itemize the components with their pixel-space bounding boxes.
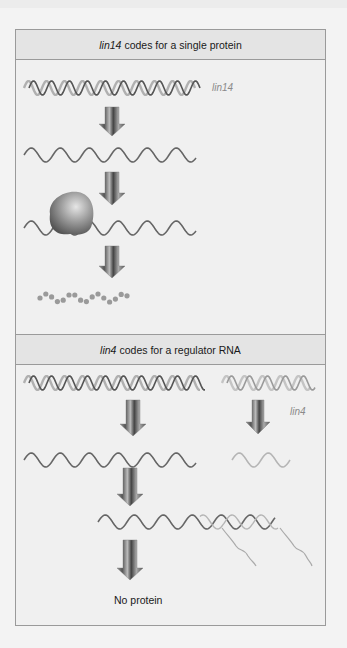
protein-residue [37,295,42,300]
arrow-protein-synthesis [99,246,125,278]
lin14-mrna-bound [98,515,275,529]
rna-tail-2 [280,528,312,566]
protein-residue [101,295,106,300]
protein-residue [78,298,83,303]
arrow-lin4-transcription [246,400,270,434]
protein-residue [90,294,95,299]
lin14-mrna-translating [24,221,196,235]
lin4-regulator-rna [232,453,290,467]
protein-residue [66,292,71,297]
protein-residue [84,299,89,304]
protein-residue [107,299,112,304]
protein-residue [95,291,100,296]
arrow-transcription [99,107,125,136]
diagram-canvas [0,0,347,648]
protein-residue [49,294,54,299]
protein-residue [72,292,77,297]
protein-residue [61,298,66,303]
protein-residue [55,299,60,304]
protein-residue [113,297,118,302]
arrow-no-translation [117,540,143,580]
arrow-lin14-transcription [120,400,146,436]
ribosome [50,192,94,235]
protein-residue [124,293,129,298]
rna-tail-1 [222,528,256,566]
lin14-mrna-2 [24,453,196,467]
protein-residue [119,292,124,297]
protein-residue [43,291,48,296]
arrow-translation [99,172,125,205]
arrow-binding [117,468,143,506]
lin14-mrna [24,148,196,162]
